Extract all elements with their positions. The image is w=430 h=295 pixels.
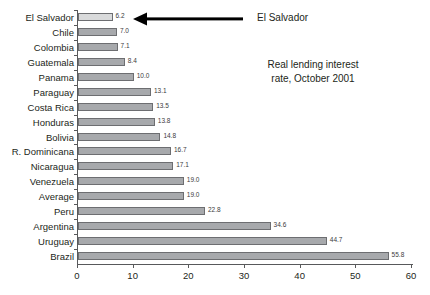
y-axis-tick (74, 159, 77, 160)
category-label: Honduras (33, 115, 74, 130)
bar (78, 133, 160, 141)
category-label: Uruguay (38, 234, 74, 249)
y-axis-tick (74, 115, 77, 116)
bar-value-label: 34.6 (274, 220, 287, 230)
bar (78, 43, 118, 51)
category-label: Colombia (34, 40, 74, 55)
bar (78, 237, 327, 245)
chart-title: Real lending interestrate, October 2001 (228, 58, 398, 86)
bar-value-label: 44.7 (330, 235, 343, 245)
bar-value-label: 22.8 (208, 205, 221, 215)
bar-value-label: 16.7 (174, 145, 187, 155)
category-label: Venezuela (30, 174, 74, 189)
chart-title-line: Real lending interest (228, 58, 398, 72)
category-label: Brazil (50, 249, 74, 264)
bar-row: 19.0 (78, 174, 412, 189)
x-axis-tick-label: 30 (239, 270, 250, 282)
bar-row: 13.5 (78, 100, 412, 115)
bar (78, 13, 113, 21)
x-axis-tick (133, 264, 134, 268)
y-axis-tick (74, 174, 77, 175)
y-axis-tick (74, 234, 77, 235)
y-axis-tick (74, 55, 77, 56)
bar (78, 58, 125, 66)
y-axis-tick (74, 249, 77, 250)
y-axis-tick (74, 144, 77, 145)
bar-value-label: 17.1 (176, 160, 189, 170)
x-axis-tick-label: 40 (294, 270, 305, 282)
category-axis-labels: El SalvadorChileColombiaGuatemalaPanamaP… (0, 10, 74, 264)
category-label: Nicaragua (31, 159, 74, 174)
bar-value-label: 8.4 (128, 56, 137, 66)
bar-row: 22.8 (78, 204, 412, 219)
x-axis-tick (188, 264, 189, 268)
category-label: El Salvador (25, 10, 74, 25)
y-axis-tick (74, 70, 77, 71)
bar-rows: 6.27.07.18.410.013.113.513.814.816.717.1… (78, 10, 412, 264)
category-label: Costa Rica (28, 100, 74, 115)
bar (78, 207, 205, 215)
category-label: Chile (52, 25, 74, 40)
x-axis-tick (355, 264, 356, 268)
bar-chart: El SalvadorChileColombiaGuatemalaPanamaP… (0, 0, 430, 295)
category-label: Bolivia (46, 130, 74, 145)
bar (78, 73, 134, 81)
y-axis-tick (74, 25, 77, 26)
x-axis-tick-label: 50 (350, 270, 361, 282)
x-axis-tick-label: 60 (406, 270, 417, 282)
category-label: Guatemala (28, 55, 74, 70)
bar (78, 118, 155, 126)
bar (78, 252, 389, 260)
x-axis-tick (300, 264, 301, 268)
bar-value-label: 10.0 (137, 71, 150, 81)
plot-area: 6.27.07.18.410.013.113.513.814.816.717.1… (77, 10, 412, 264)
y-axis-tick (74, 85, 77, 86)
annotation-label: El Salvador (257, 11, 308, 25)
bar-row: 34.6 (78, 219, 412, 234)
bar-value-label: 14.8 (163, 131, 176, 141)
bar-row: 16.7 (78, 144, 412, 159)
bar (78, 88, 151, 96)
bar (78, 192, 184, 200)
y-axis-tick (74, 204, 77, 205)
bar-row: 7.1 (78, 40, 412, 55)
bar-value-label: 13.5 (156, 101, 169, 111)
bar-row: 55.8 (78, 249, 412, 264)
category-label: Average (39, 189, 74, 204)
bar-value-label: 6.2 (116, 11, 125, 21)
bar-row: 44.7 (78, 234, 412, 249)
chart-title-line: rate, October 2001 (228, 72, 398, 86)
x-axis-tick-label: 20 (183, 270, 194, 282)
bar-row: 13.8 (78, 115, 412, 130)
bar-row: 6.2 (78, 10, 412, 25)
x-axis-tick (77, 264, 78, 268)
category-label: Peru (54, 204, 74, 219)
bar-value-label: 13.8 (158, 116, 171, 126)
category-label: Argentina (33, 219, 74, 234)
bar-row: 19.0 (78, 189, 412, 204)
category-label: Panama (39, 70, 74, 85)
y-axis-tick (74, 189, 77, 190)
category-label: Paraguay (33, 85, 74, 100)
y-axis-tick (74, 130, 77, 131)
bar-row: 14.8 (78, 130, 412, 145)
bar (78, 28, 117, 36)
x-axis-tick (411, 264, 412, 268)
bar-value-label: 19.0 (187, 190, 200, 200)
bar (78, 147, 171, 155)
x-axis-tick-label: 0 (74, 270, 79, 282)
bar-value-label: 19.0 (187, 175, 200, 185)
bar (78, 103, 153, 111)
bar-row: 7.0 (78, 25, 412, 40)
bar-row: 13.1 (78, 85, 412, 100)
bar-value-label: 7.0 (120, 26, 129, 36)
bar (78, 222, 271, 230)
category-label: R. Dominicana (12, 144, 74, 159)
y-axis-tick (74, 100, 77, 101)
bar (78, 162, 173, 170)
x-axis-line (77, 264, 413, 265)
x-axis-tick (244, 264, 245, 268)
y-axis-tick (74, 40, 77, 41)
bar (78, 177, 184, 185)
y-axis-tick (74, 219, 77, 220)
